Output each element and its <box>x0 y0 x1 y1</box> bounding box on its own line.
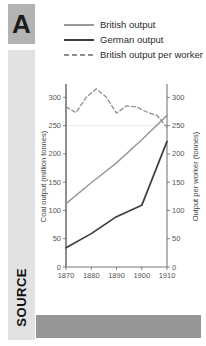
y-tick-label-right: 200 <box>172 149 185 158</box>
y-tick-label-left: 300 <box>48 93 61 102</box>
y-axis-title-left: Coal output (million tonnes) <box>39 130 48 222</box>
y-tick-label-right: 250 <box>172 121 185 130</box>
y-tick-label-right: 100 <box>172 206 185 215</box>
legend-swatch-icon <box>64 35 94 45</box>
caption-placeholder-bar <box>36 315 201 338</box>
legend-swatch-icon <box>64 50 94 60</box>
source-vertical-label-text: SOURCE <box>14 268 29 327</box>
y-tick-label-left: 250 <box>48 121 61 130</box>
y-tick-label-right: 150 <box>172 178 185 187</box>
legend-item-label: British output per worker <box>100 49 203 60</box>
x-tick-label: 1900 <box>133 271 150 280</box>
chart-svg: 0501001502002503000501001502002503001870… <box>36 72 206 287</box>
y-tick-label-left: 100 <box>48 206 61 215</box>
x-tick-label: 1890 <box>108 271 125 280</box>
source-badge-label: A <box>12 11 31 37</box>
legend-item: German output <box>64 32 206 47</box>
legend-item-label: British output <box>100 19 155 30</box>
source-vertical-label: SOURCE <box>8 255 35 340</box>
legend-swatch-icon <box>64 20 94 30</box>
legend-item: British output <box>64 17 206 32</box>
y-tick-label-right: 300 <box>172 93 185 102</box>
y-tick-label-left: 150 <box>48 178 61 187</box>
legend-item: British output per worker <box>64 47 206 62</box>
source-badge-a: A <box>8 4 35 44</box>
x-tick-label: 1870 <box>58 271 75 280</box>
chart-series-line <box>66 89 167 127</box>
y-tick-label-right: 50 <box>172 234 180 243</box>
legend-item-label: German output <box>100 34 163 45</box>
chart-series-line <box>66 115 167 203</box>
chart-series-line <box>66 141 167 247</box>
y-tick-label-left: 50 <box>53 234 61 243</box>
y-axis-title-right: Output per worker (tonnes) <box>191 131 200 221</box>
coal-output-chart: 0501001502002503000501001502002503001870… <box>36 72 206 287</box>
chart-legend: British outputGerman outputBritish outpu… <box>64 17 206 62</box>
x-tick-label: 1910 <box>159 271 176 280</box>
x-tick-label: 1880 <box>83 271 100 280</box>
source-figure-panel: A SOURCE British outputGerman outputBrit… <box>0 0 206 346</box>
y-tick-label-left: 200 <box>48 149 61 158</box>
